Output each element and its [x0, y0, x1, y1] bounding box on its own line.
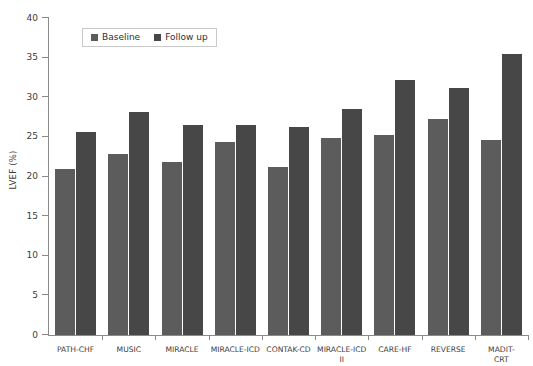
x-axis-label: MIRACLE-ICD II: [317, 345, 366, 365]
x-axis-tick: [368, 335, 369, 340]
y-axis-tick: 5: [42, 294, 49, 295]
baseline-swatch: [91, 34, 98, 41]
y-axis-tick-label: 35: [27, 52, 38, 62]
bar: [129, 112, 149, 335]
bar: [55, 169, 75, 335]
x-axis-label: REVERSE: [431, 345, 466, 355]
legend-entry: Baseline: [91, 32, 140, 42]
x-axis-tick: [422, 335, 423, 340]
bar: [108, 154, 128, 335]
x-axis-label: MIRACLE-ICD: [211, 345, 260, 355]
y-axis-tick: 25: [42, 136, 49, 137]
bar: [342, 109, 362, 335]
x-axis-tick: [262, 335, 263, 340]
x-axis-tick: [315, 335, 316, 340]
bar: [374, 135, 394, 336]
x-axis-tick: [102, 335, 103, 340]
y-axis-tick-label: 30: [27, 92, 38, 102]
bar: [481, 140, 501, 335]
x-axis-label: CONTAK-CD: [266, 345, 310, 355]
bar: [428, 119, 448, 335]
followup-swatch: [154, 34, 161, 41]
bar: [502, 54, 522, 335]
y-axis-tick-label: 0: [32, 330, 38, 340]
bar: [321, 138, 341, 335]
bar: [183, 125, 203, 335]
chart-legend: BaselineFollow up: [82, 28, 217, 47]
y-axis-tick: 20: [42, 176, 49, 177]
y-axis-tick-label: 15: [27, 211, 38, 221]
y-axis-tick-label: 10: [27, 250, 38, 260]
bar: [162, 162, 182, 335]
y-axis-tick-label: 25: [27, 131, 38, 141]
y-axis-tick: 40: [42, 17, 49, 18]
y-axis-tick: 0: [42, 334, 49, 335]
bar: [236, 125, 256, 335]
legend-entry: Follow up: [154, 32, 208, 42]
y-axis-title: LVEF (%): [0, 0, 26, 340]
y-axis-title-text: LVEF (%): [8, 151, 18, 190]
x-axis-label: MADIT-CRT: [488, 345, 515, 365]
legend-label: Baseline: [102, 32, 140, 42]
bar: [289, 127, 309, 335]
y-axis-tick: 10: [42, 255, 49, 256]
bar: [76, 132, 96, 335]
x-axis-label: MUSIC: [117, 345, 141, 355]
x-axis-tick: [528, 335, 529, 340]
x-axis-label: MIRACLE: [165, 345, 198, 355]
bar: [395, 80, 415, 335]
bar-chart: LVEF (%) 0510152025303540 PATH-CHFMUSICM…: [0, 0, 533, 366]
plot-area: 0510152025303540 PATH-CHFMUSICMIRACLEMIR…: [48, 18, 528, 336]
x-axis-label: CARE-HF: [378, 345, 411, 355]
x-axis-label: PATH-CHF: [57, 345, 94, 355]
legend-label: Follow up: [165, 32, 208, 42]
y-axis-tick: 35: [42, 57, 49, 58]
bar: [449, 88, 469, 335]
y-axis-tick-label: 20: [27, 171, 38, 181]
y-axis-tick-label: 5: [32, 290, 38, 300]
x-axis-tick: [209, 335, 210, 340]
x-axis-tick: [475, 335, 476, 340]
y-axis-tick: 30: [42, 96, 49, 97]
y-axis-tick: 15: [42, 215, 49, 216]
y-axis-tick-label: 40: [27, 13, 38, 23]
bar: [215, 142, 235, 335]
bar: [268, 167, 288, 335]
x-axis-tick: [155, 335, 156, 340]
